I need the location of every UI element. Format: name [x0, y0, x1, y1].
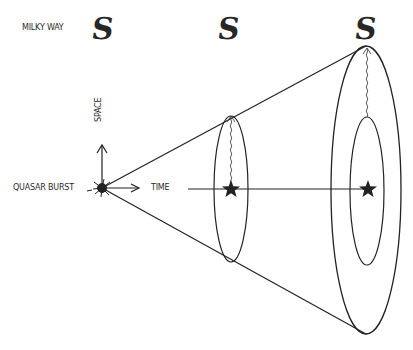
milky-way-galaxy-icon: S [216, 14, 242, 44]
space-axis-label: SPACE [95, 98, 103, 122]
time-axis-label: TIME [151, 184, 169, 192]
outer-light-path-wavy [366, 49, 368, 117]
star-icon [359, 180, 377, 197]
quasar-burst-label: QUASAR BURST [13, 184, 74, 192]
milky-way-label: MILKY WAY [22, 24, 64, 32]
middle-light-path-wavy [230, 116, 232, 188]
milky-way-galaxy-icon: S [353, 14, 379, 44]
star-icon [222, 180, 240, 197]
diagram-drawing [0, 0, 413, 350]
quasar-light-cone-diagram: S S S MILKY WAY SPACE QUASAR BURST TIME [0, 0, 413, 350]
milky-way-galaxy-icon: S [90, 14, 116, 44]
quasar-burst-icon [87, 179, 110, 197]
